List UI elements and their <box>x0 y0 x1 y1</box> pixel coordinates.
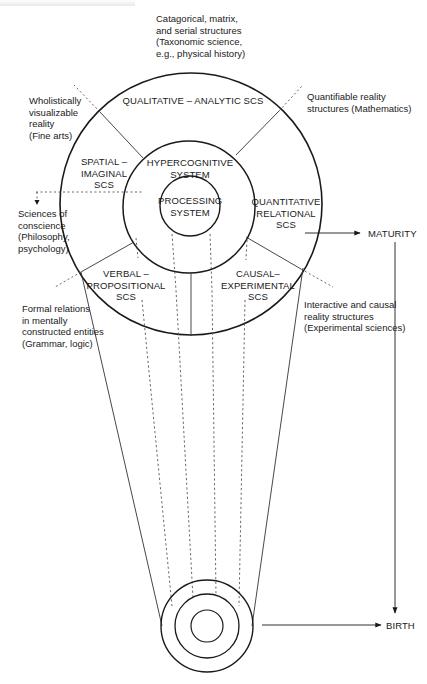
domain-taxonomic-label: Catagorical, matrix, and serial structur… <box>156 13 245 59</box>
domain-grammar-logic-label: Formal relations in mentally constructed… <box>22 303 104 349</box>
maturity-label: MATURITY <box>368 228 417 240</box>
scs-qualitative-analytic-label: QUALITATIVE – ANALYTIC SCS <box>120 95 266 107</box>
domain-experimental-label: Interactive and causal reality structure… <box>304 299 405 334</box>
birth-middle-circle <box>175 594 239 658</box>
domain-fine-arts-label: Wholistically visualizable reality (Fine… <box>29 95 81 141</box>
scs-verbal-propositional-label: VERBAL – PROPOSITIONAL SCS <box>82 268 170 303</box>
scs-quantitative-relational-label: QUANTITATIVE RELATIONAL SCS <box>250 196 322 231</box>
birth-label: BIRTH <box>386 620 415 632</box>
conscience-arrowhead <box>35 200 40 205</box>
domain-philosophy-label: Sciences of conscience (Philosophy, psyc… <box>18 208 70 254</box>
hypercognitive-system-label: HYPERCOGNITIVE SYSTEM <box>140 157 240 180</box>
scs-spatial-imaginal-label: SPATIAL – IMAGINAL SCS <box>72 156 136 191</box>
processing-system-label: PROCESSING SYSTEM <box>158 195 222 218</box>
birth-inner-circle <box>191 610 223 642</box>
scs-causal-experimental-label: CAUSAL– EXPERIMENTAL SCS <box>220 268 296 303</box>
domain-mathematics-label: Quantifiable reality structures (Mathema… <box>307 91 412 114</box>
